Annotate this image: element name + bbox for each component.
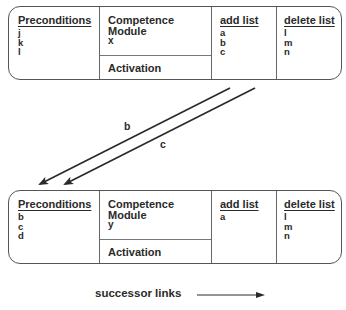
link-label-c: c [160,138,166,150]
successor-link-arrows [0,0,346,310]
link-label-b: b [124,120,130,132]
legend-arrowhead-icon [256,292,265,298]
successor-link-arrow-b [40,88,230,184]
successor-link-arrow-c [65,88,255,184]
legend-label: successor links [95,287,181,299]
